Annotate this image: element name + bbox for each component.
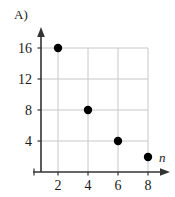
x-axis-arrowhead bbox=[160, 168, 170, 176]
y-axis bbox=[37, 27, 45, 172]
x-tick-label-8: 8 bbox=[145, 178, 152, 193]
x-axis-title: n bbox=[159, 150, 166, 165]
x-tick-label-2: 2 bbox=[55, 178, 62, 193]
data-point bbox=[84, 106, 92, 114]
y-tick-label-16: 16 bbox=[18, 41, 32, 56]
y-tick-label-4: 4 bbox=[25, 134, 32, 149]
y-axis-arrowhead bbox=[37, 27, 45, 37]
data-points bbox=[54, 44, 152, 161]
y-tick-label-8: 8 bbox=[25, 103, 32, 118]
figure-container: A) bbox=[0, 0, 175, 197]
data-point bbox=[114, 137, 122, 145]
x-tick-labels: 2 4 6 8 bbox=[55, 178, 152, 193]
x-tick-label-4: 4 bbox=[85, 178, 92, 193]
y-tick-labels: 16 12 8 4 bbox=[18, 41, 32, 149]
horizontal-gridlines bbox=[41, 48, 148, 141]
data-point bbox=[54, 44, 62, 52]
scatter-plot: 16 12 8 4 2 4 6 8 n bbox=[0, 0, 175, 197]
data-point bbox=[144, 153, 152, 161]
x-tick-label-6: 6 bbox=[115, 178, 122, 193]
y-tick-label-12: 12 bbox=[18, 72, 32, 87]
x-axis bbox=[33, 168, 170, 176]
